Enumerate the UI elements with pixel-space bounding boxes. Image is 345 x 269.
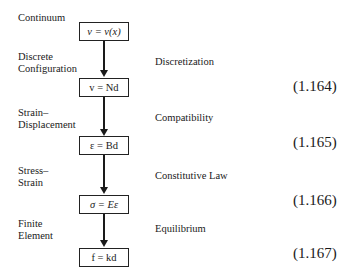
- box-text: σ = Eε: [90, 199, 118, 210]
- equation-box-strain: ε = Bd: [79, 136, 129, 155]
- equation-number: (1.165): [293, 134, 337, 151]
- arrow-down-icon: [100, 70, 108, 77]
- connector-line: [103, 41, 105, 71]
- equation-box-stress: σ = Eε: [79, 195, 129, 214]
- equation-number: (1.167): [293, 245, 337, 262]
- equation-box-continuum: v = v(x): [79, 22, 129, 41]
- left-label-stress-strain: Stress– Strain: [18, 165, 48, 189]
- connector-line: [103, 155, 105, 188]
- box-text: v = Nd: [89, 82, 118, 93]
- right-label-equilibrium: Equilibrium: [155, 223, 206, 235]
- box-text: ε = Bd: [90, 140, 118, 151]
- box-text: f = kd: [91, 252, 116, 263]
- arrow-down-icon: [100, 240, 108, 247]
- left-label-discrete-configuration: Discrete Configuration: [18, 51, 77, 75]
- connector-line: [103, 97, 105, 130]
- right-label-discretization: Discretization: [155, 56, 214, 68]
- continuum-label: Continuum: [18, 12, 65, 24]
- right-label-compatibility: Compatibility: [155, 112, 213, 124]
- box-text: v = v(x): [87, 26, 120, 37]
- equation-box-discrete: v = Nd: [79, 78, 129, 97]
- equation-box-finite-element: f = kd: [79, 248, 129, 267]
- arrow-down-icon: [100, 129, 108, 136]
- connector-line: [103, 214, 105, 241]
- equation-number: (1.166): [293, 192, 337, 209]
- right-label-constitutive-law: Constitutive Law: [155, 170, 228, 182]
- left-label-finite-element: Finite Element: [18, 218, 53, 242]
- left-label-strain-displacement: Strain– Displacement: [18, 107, 76, 131]
- equation-number: (1.164): [293, 78, 337, 95]
- arrow-down-icon: [100, 187, 108, 194]
